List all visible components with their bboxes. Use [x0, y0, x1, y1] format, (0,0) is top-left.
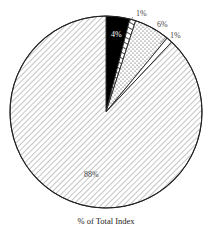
- slice-label-main: 88%: [84, 170, 99, 179]
- pie-slice-4: [10, 16, 202, 208]
- slice-label-white: 1%: [170, 31, 181, 40]
- slice-label-hatch-thin: 1%: [136, 9, 147, 18]
- pie-chart: 4% 1% 6% 1% 88% % of Total Index: [0, 0, 208, 231]
- pie-slices: [10, 16, 202, 208]
- slice-label-black: 4%: [111, 30, 122, 39]
- slice-label-dotted: 6%: [157, 20, 168, 29]
- chart-caption: % of Total Index: [77, 216, 135, 226]
